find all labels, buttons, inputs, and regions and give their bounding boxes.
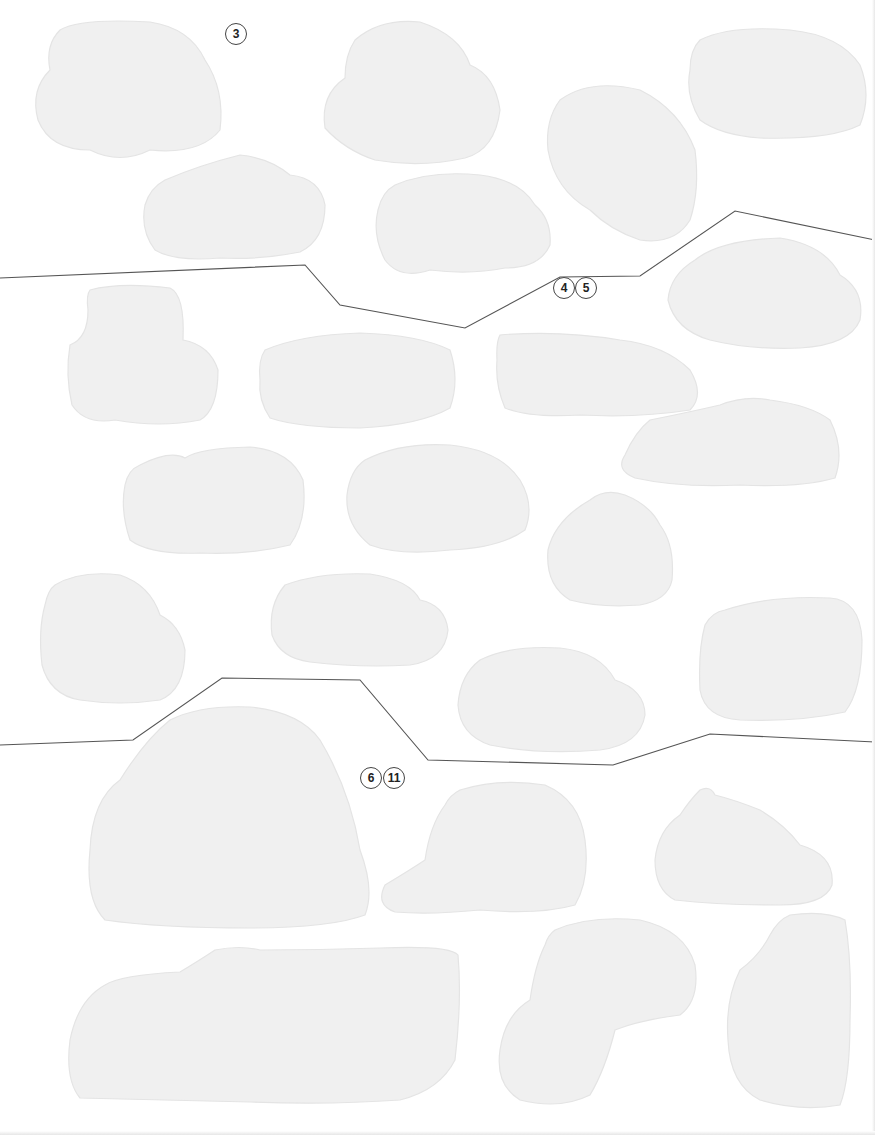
sticker-car-12 xyxy=(123,447,304,553)
sticker-car-3 xyxy=(689,29,866,138)
sticker-car-14 xyxy=(548,492,673,605)
sticker-car-10 xyxy=(497,333,698,415)
sticker-car-16 xyxy=(271,574,448,666)
sticker-car-7 xyxy=(668,238,861,348)
sticker-sheet-canvas xyxy=(0,0,875,1135)
page-bottom-shadow xyxy=(0,1131,875,1135)
sticker-car-17 xyxy=(458,648,645,752)
sticker-sheet: 3 4 5 6 11 xyxy=(0,0,875,1135)
sticker-car-1 xyxy=(36,21,221,158)
sticker-car-9 xyxy=(260,333,455,428)
sticker-car-4 xyxy=(548,86,697,241)
sticker-car-2 xyxy=(324,21,500,163)
sticker-car-18 xyxy=(700,598,862,721)
section-label-6: 6 xyxy=(360,767,382,789)
section-label-3: 3 xyxy=(225,23,247,45)
sticker-car-13 xyxy=(347,445,529,553)
section-label-11: 11 xyxy=(383,767,405,789)
sticker-car-20 xyxy=(382,782,587,913)
section-label-5: 5 xyxy=(575,277,597,299)
sticker-car-15 xyxy=(41,574,185,703)
sticker-shapes xyxy=(36,21,866,1108)
sticker-car-22 xyxy=(69,947,460,1103)
sticker-car-8 xyxy=(68,285,218,424)
section-label-4: 4 xyxy=(553,277,575,299)
sticker-car-23 xyxy=(499,919,696,1104)
sticker-car-24 xyxy=(728,913,851,1107)
sticker-car-21 xyxy=(655,788,832,905)
sticker-car-6 xyxy=(376,174,550,274)
sticker-car-5 xyxy=(144,155,325,259)
